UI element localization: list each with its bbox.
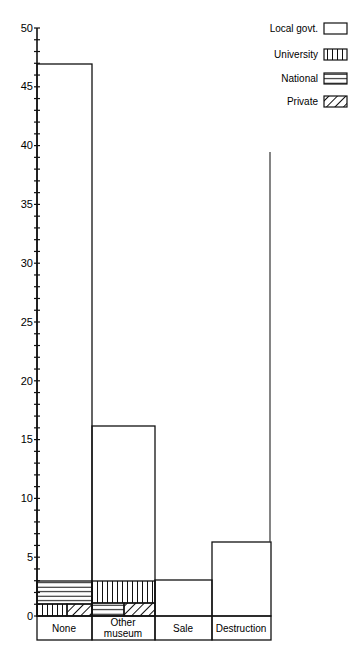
tick-0: 0	[27, 610, 33, 622]
y-tick-labels: 0 5 10 15 20 25 30 35 40 45 50	[21, 22, 33, 622]
tick-35: 35	[21, 198, 33, 210]
bar-sale	[155, 580, 212, 616]
tick-25: 25	[21, 316, 33, 328]
tick-5: 5	[27, 551, 33, 563]
legend-national: National	[281, 73, 318, 84]
category-destruction: Destruction	[216, 623, 267, 634]
legend-private: Private	[287, 96, 319, 107]
category-none: None	[52, 623, 76, 634]
bar-none	[37, 64, 92, 616]
bar-destruction	[212, 152, 271, 616]
legend-swatch-private	[324, 96, 347, 107]
chart: 0 5 10 15 20 25 30 35 40 45 50	[0, 0, 360, 654]
tick-40: 40	[21, 139, 33, 151]
tick-45: 45	[21, 80, 33, 92]
legend-university: University	[274, 49, 318, 60]
tick-20: 20	[21, 375, 33, 387]
category-other-line1: Other	[110, 617, 136, 628]
category-other-line2: museum	[104, 628, 142, 639]
bar-other-museum	[92, 426, 155, 616]
tick-30: 30	[21, 257, 33, 269]
legend: Local govt. University National Private	[270, 23, 347, 107]
legend-swatch-national	[324, 73, 347, 84]
legend-swatch-university	[324, 49, 347, 60]
tick-15: 15	[21, 433, 33, 445]
legend-swatch-local	[324, 23, 347, 34]
tick-10: 10	[21, 492, 33, 504]
tick-50: 50	[21, 22, 33, 34]
legend-local-govt: Local govt.	[270, 23, 318, 34]
category-sale: Sale	[173, 623, 193, 634]
